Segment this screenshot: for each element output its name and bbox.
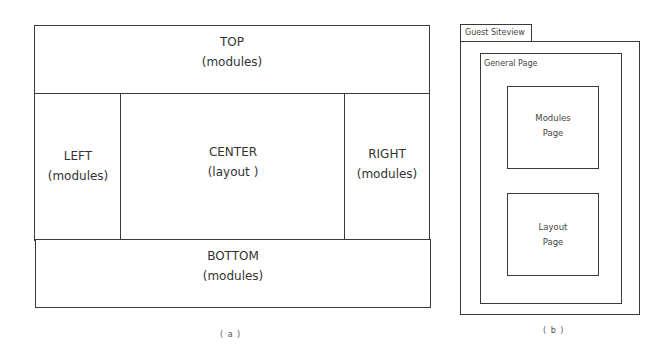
layout-page: Layout Page	[507, 193, 599, 276]
layout-page-line1: Layout	[508, 220, 598, 235]
region-bottom: BOTTOM (modules)	[35, 239, 431, 308]
region-right-label: RIGHT (modules)	[345, 144, 429, 184]
region-right-title: RIGHT	[345, 144, 429, 164]
region-top-subtitle: (modules)	[35, 52, 429, 72]
layout-page-line2: Page	[508, 235, 598, 250]
caption-b: ( b )	[543, 326, 564, 335]
region-left: LEFT (modules)	[34, 93, 122, 241]
region-bottom-label: BOTTOM (modules)	[36, 246, 430, 286]
region-bottom-subtitle: (modules)	[36, 266, 430, 286]
region-top: TOP (modules)	[34, 25, 430, 95]
layout-page-label: Layout Page	[508, 220, 598, 250]
region-left-title: LEFT	[35, 146, 121, 166]
region-right-subtitle: (modules)	[345, 164, 429, 184]
modules-page: Modules Page	[507, 86, 599, 169]
region-top-title: TOP	[35, 32, 429, 52]
region-top-label: TOP (modules)	[35, 32, 429, 72]
region-left-label: LEFT (modules)	[35, 146, 121, 186]
general-page-label: General Page	[484, 59, 537, 68]
region-bottom-title: BOTTOM	[36, 246, 430, 266]
region-right: RIGHT (modules)	[344, 93, 430, 241]
region-center: CENTER (layout )	[120, 93, 346, 241]
region-center-label: CENTER (layout )	[121, 142, 345, 182]
modules-page-label: Modules Page	[508, 111, 598, 141]
modules-page-line2: Page	[508, 126, 598, 141]
region-center-subtitle: (layout )	[121, 162, 345, 182]
caption-a: ( a )	[220, 330, 241, 339]
modules-page-line1: Modules	[508, 111, 598, 126]
region-center-title: CENTER	[121, 142, 345, 162]
region-left-subtitle: (modules)	[35, 166, 121, 186]
